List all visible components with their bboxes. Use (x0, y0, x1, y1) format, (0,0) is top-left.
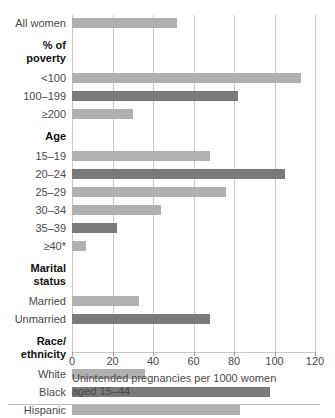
bar-20-24 (72, 169, 285, 179)
bar-label-all-women: All women (0, 15, 66, 31)
x-axis-caption: Unintended pregnancies per 1000 women ag… (72, 372, 322, 398)
bar-25-29 (72, 187, 226, 197)
x-tick-label-120: 120 (295, 355, 335, 367)
caption-line-2: aged 15–44 (72, 385, 322, 398)
bar-row: 30–34 (0, 202, 335, 218)
bar-row: ≥40* (0, 238, 335, 254)
group-heading-2-0: Age (0, 130, 66, 143)
x-tick-label-100: 100 (255, 355, 295, 367)
x-tick-label-0: 0 (52, 355, 92, 367)
bar-row: Married (0, 293, 335, 309)
bar-35-39 (72, 223, 117, 233)
bar-row: 35–39 (0, 220, 335, 236)
bar-label-married: Married (0, 293, 66, 309)
bar-label--100: <100 (0, 70, 66, 86)
bar-hispanic (72, 405, 240, 415)
bar-row: 100–199 (0, 88, 335, 104)
bar-row: Unmarried (0, 311, 335, 327)
bar-label-100-199: 100–199 (0, 88, 66, 104)
bar--40- (72, 241, 86, 251)
bar-row: All women (0, 15, 335, 31)
group-heading-1-0: % of (0, 39, 66, 52)
bar-label-20-24: 20–24 (0, 166, 66, 182)
bar-label-30-34: 30–34 (0, 202, 66, 218)
bar-label-25-29: 25–29 (0, 184, 66, 200)
bar-row: 15–19 (0, 148, 335, 164)
bar-married (72, 296, 139, 306)
group-heading-1-1: poverty (0, 52, 66, 65)
bar-label--40-: ≥40* (0, 238, 66, 254)
group-heading-3-1: status (0, 275, 66, 288)
bar-100-199 (72, 91, 238, 101)
x-tick-label-20: 20 (93, 355, 133, 367)
bar-label-unmarried: Unmarried (0, 311, 66, 327)
bar-row: ≥200 (0, 106, 335, 122)
bar-row: 25–29 (0, 184, 335, 200)
bar-label-15-19: 15–19 (0, 148, 66, 164)
bar-label-35-39: 35–39 (0, 220, 66, 236)
group-heading-3-0: Marital (0, 262, 66, 275)
bar--200 (72, 109, 133, 119)
bar-row: 20–24 (0, 166, 335, 182)
bar-30-34 (72, 205, 161, 215)
bar-label-black: Black (0, 384, 66, 400)
x-tick-label-80: 80 (214, 355, 254, 367)
bar--100 (72, 73, 301, 83)
bar-all-women (72, 18, 177, 28)
group-heading-4-0: Race/ (0, 335, 66, 348)
x-tick-label-60: 60 (174, 355, 214, 367)
x-tick-label-40: 40 (133, 355, 173, 367)
bar-label--200: ≥200 (0, 106, 66, 122)
bar-row: <100 (0, 70, 335, 86)
bar-unmarried (72, 314, 210, 324)
caption-line-1: Unintended pregnancies per 1000 women (72, 372, 322, 385)
bar-15-19 (72, 151, 210, 161)
bottom-divider (8, 404, 320, 405)
bar-label-white: White (0, 366, 66, 382)
